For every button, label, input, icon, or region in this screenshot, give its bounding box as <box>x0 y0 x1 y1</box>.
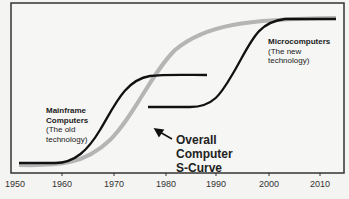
tick-2000: 2000 <box>254 179 284 189</box>
tick-1990: 1990 <box>201 179 231 189</box>
tick-1950: 1950 <box>0 179 30 189</box>
tick-1960: 1960 <box>47 179 77 189</box>
tick-1980: 1980 <box>151 179 181 189</box>
overall-label: OverallComputerS-Curve <box>176 133 233 175</box>
tick-1970: 1970 <box>99 179 129 189</box>
mainframe-label: MainframeComputers(The oldtechnology) <box>46 106 88 144</box>
chart-canvas <box>0 0 349 199</box>
tick-2010: 2010 <box>305 179 335 189</box>
microcomputers-label: Microcomputers(The newtechnology) <box>268 37 330 66</box>
